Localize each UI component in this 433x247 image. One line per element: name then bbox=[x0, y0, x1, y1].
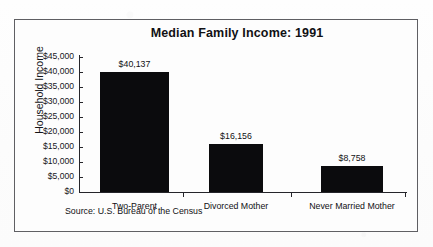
y-tick-mark bbox=[79, 147, 83, 148]
source-note: Source: U.S. Bureau of the Census bbox=[65, 206, 202, 216]
chart-title: Median Family Income: 1991 bbox=[15, 26, 419, 40]
x-axis-line bbox=[79, 192, 407, 193]
y-tick-mark bbox=[79, 117, 83, 118]
y-tick-mark bbox=[79, 177, 83, 178]
bar-value-divorced-mother: $16,156 bbox=[209, 131, 263, 141]
y-tick-label: $40,000 bbox=[43, 66, 74, 76]
y-tick-mark bbox=[79, 87, 83, 88]
y-axis-line bbox=[79, 55, 80, 192]
y-tick-label: $30,000 bbox=[43, 96, 74, 106]
y-tick-label: $10,000 bbox=[43, 156, 74, 166]
bar-value-two-parent: $40,137 bbox=[100, 59, 169, 69]
y-tick-label: $15,000 bbox=[43, 141, 74, 151]
bar-divorced-mother bbox=[209, 144, 263, 193]
bar-value-never-married-mother: $8,758 bbox=[321, 153, 383, 163]
bar-two-parent bbox=[100, 72, 169, 192]
plot-area: $45,000 $40,000 $35,000 $30,000 $25,000 … bbox=[79, 57, 409, 192]
x-tick-separator-1 bbox=[183, 193, 184, 197]
y-tick-mark bbox=[79, 162, 83, 163]
bar-never-married-mother bbox=[321, 166, 383, 192]
x-tick-separator-3 bbox=[405, 193, 406, 197]
y-tick-label: $0 bbox=[64, 186, 74, 196]
y-tick-label: $35,000 bbox=[43, 81, 74, 91]
y-tick-mark bbox=[79, 72, 83, 73]
y-tick-mark bbox=[79, 192, 83, 193]
y-tick-mark bbox=[79, 102, 83, 103]
chart-page: Median Family Income: 1991 Household Inc… bbox=[0, 0, 433, 247]
y-tick-label: $45,000 bbox=[43, 51, 74, 61]
category-label-divorced-mother: Divorced Mother bbox=[191, 201, 281, 211]
chart-frame: Median Family Income: 1991 Household Inc… bbox=[14, 19, 418, 232]
y-tick-label: $5,000 bbox=[48, 171, 74, 181]
y-tick-mark bbox=[79, 57, 83, 58]
y-tick-mark bbox=[79, 132, 83, 133]
y-tick-label: $20,000 bbox=[43, 126, 74, 136]
x-tick-separator-2 bbox=[291, 193, 292, 197]
category-label-never-married-mother: Never Married Mother bbox=[307, 201, 397, 211]
y-tick-label: $25,000 bbox=[43, 111, 74, 121]
